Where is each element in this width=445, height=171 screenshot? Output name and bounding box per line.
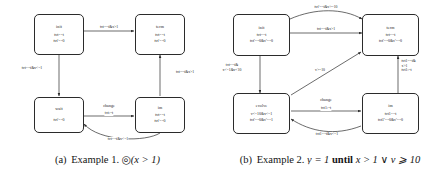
node-b-im-label: im [388,104,393,109]
caption-a-tag: (a) [55,154,67,165]
node-im-label: im [158,106,163,111]
figure-root: init tvt==t tvt'==0 term tvt==t tvt'==0 … [0,0,445,171]
node-b-evolve-invariant-2: tvt'==0&v'==1 [250,118,273,122]
node-wait-invariant-2: tvt'==0 [53,118,64,122]
node-b-term[interactable]: term tvt==t tvt'==0&v'==0 [362,14,419,56]
edge-label-b-im-evolve: tvt1==t&x<=1 [315,132,338,137]
node-term-invariant-1: tvt==t [155,33,165,37]
edge-label-b-im-term-line1: tvt1==t& [402,59,416,64]
edge-event-b-evolve-im: change [320,97,331,102]
caption-b-formula-lhs: ṿ = 1 [307,154,329,165]
edge-label-b-init-evolve: tvt==t& x<=1&v<10 [222,63,242,72]
node-b-evolve-invariant-1: v<=10&x<=1 [251,112,273,116]
caption-b-formula-rhs: x > 1 ∨ v ⩾ 10 [356,154,421,165]
edge-label-b-evolve-term: v>=10 [315,68,326,73]
node-init-label: init [56,25,62,30]
node-im[interactable]: im tvt==t tvt'==0 [135,97,185,133]
caption-b-text: Example 2. [257,154,305,165]
panel-example-2: init tvt==t tvt'==0&v'==0 term tvt==t tv… [215,0,445,171]
node-b-im[interactable]: im tvt1==t tvt1'==0&v'==0 [362,93,419,134]
edge-label-wait-im: tvt:=t [104,111,113,116]
node-term-label: term [156,25,164,30]
edge-label-init-term: tvt==t&x>1 [99,25,118,30]
node-b-init-label: init [259,26,265,31]
node-init[interactable]: init tvt==t tvt'==0 [34,14,84,55]
edge-label-b-init-evolve-line2: x<=1&v<10 [223,68,242,73]
node-b-term-invariant-2: tvt'==0&v'==0 [379,39,402,43]
node-b-im-invariant-1: tvt1==t [385,112,397,116]
node-init-invariant-1: tvt==t [54,33,64,37]
node-b-im-invariant-2: tvt1'==0&v'==0 [378,118,403,122]
caption-a: (a) Example 1. ◎(x > 1) [0,153,215,165]
node-im-invariant-1: tvt==t [155,113,165,117]
caption-a-formula: (x > 1) [131,154,160,165]
edge-label-im-term: tvt==t&x>1 [175,70,194,75]
node-b-term-invariant-1: tvt==t [386,33,396,37]
node-b-init[interactable]: init tvt==t tvt'==0&v'==0 [233,14,290,56]
edge-label-b-init-term-top: tvt'==t&v>=10 [314,5,338,10]
edge-label-b-im-term: tvt1==t& x>1 tvt1:=t [401,59,416,73]
caption-b-formula-keyword: until [332,154,353,165]
panel-example-1: init tvt==t tvt'==0 term tvt==t tvt'==0 … [0,0,215,171]
node-b-term-label: term [387,26,395,31]
caption-b-tag: (b) [240,154,252,165]
caption-b: (b) Example 2. ṿ = 1 until x > 1 ∨ v ⩾ 1… [215,153,445,165]
node-b-init-invariant-1: tvt==t [257,33,267,37]
edge-label-b-init-term-low: tvt==t&x>1 [316,27,335,32]
node-im-invariant-2: tvt'==0 [154,119,165,123]
edge-label-b-im-term-line3: tvt1:=t [402,68,416,73]
node-term-invariant-2: tvt'==0 [154,39,165,43]
node-b-evolve[interactable]: evolve v<=10&x<=1 tvt'==0&v'==1 [233,93,290,134]
node-term[interactable]: term tvt==t tvt'==0 [135,14,185,55]
caption-a-text: Example 1. [71,154,119,165]
edge-event-wait-im: change [103,103,114,108]
node-b-evolve-label: evolve [256,104,268,109]
caption-a-operator-icon: ◎ [122,154,131,165]
node-b-init-invariant-2: tvt'==0&v'==0 [250,39,273,43]
node-wait-label: wait [55,107,62,112]
node-init-invariant-2: tvt'==0 [53,39,64,43]
node-wait[interactable]: wait tvt'==0 [34,97,84,133]
edge-label-im-wait: tvt==t&x<=1 [107,137,128,142]
edge-label-init-wait: tvt==t&x<=1 [21,66,42,71]
edge-label-b-evolve-im: tvt1:=t [320,106,331,111]
